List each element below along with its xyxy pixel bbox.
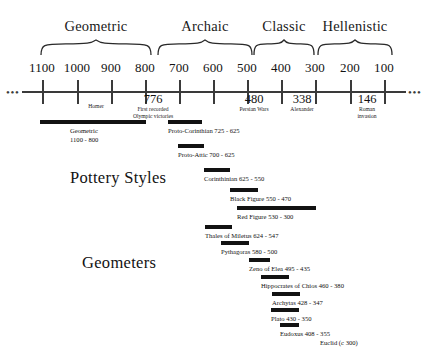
pottery-label-proto-attic-700-625: Proto-Attic 700 - 625 [178, 151, 235, 160]
axis-tick-900 [111, 80, 113, 104]
axis-event-caption-roman: Roman invasion [335, 106, 399, 120]
axis-tick-label-1100: 1100 [29, 60, 55, 76]
period-label-hellenistic: Hellenistic [295, 18, 415, 35]
pottery-bar-black-figure-550-470 [230, 188, 258, 192]
axis-event-year-146: 146 [358, 92, 377, 107]
pottery-label-proto-corinthian-725-625: Proto-Corinthian 725 - 625 [168, 127, 240, 136]
geometer-bar-plato-430-350 [271, 308, 299, 312]
geometer-bar-pythagoras-580-500 [221, 241, 249, 245]
axis-tick-label-400: 400 [271, 60, 291, 76]
axis-tick-100 [384, 80, 386, 104]
period-brace-archaic [157, 39, 253, 55]
axis-event-year-480: 480 [245, 92, 264, 107]
period-brace-geometric [40, 39, 152, 55]
axis-tick-label-800: 800 [135, 60, 155, 76]
pottery-label-geometric: Geometric 1100 - 800 [70, 127, 98, 144]
axis-tick-label-700: 700 [169, 60, 189, 76]
timeline-figure: GeometricArchaicClassicHellenistic ••• •… [0, 0, 428, 349]
axis-tick-label-500: 500 [237, 60, 257, 76]
axis-tick-600 [213, 80, 215, 104]
axis-tick-1100 [42, 80, 44, 104]
geometer-label-pythagoras-580-500: Pythagoras 580 - 500 [221, 248, 277, 257]
geometer-label-archytas-428-347: Archytas 428 - 347 [272, 299, 323, 308]
pottery-bar-proto-attic-700-625 [178, 144, 204, 148]
period-brace-classic [253, 39, 315, 55]
axis-event-caption-first-recorded: First recorded Olympic victories [121, 106, 185, 120]
pottery-label-black-figure-550-470: Black Figure 550 - 470 [230, 195, 291, 204]
axis-event-year-338: 338 [293, 92, 312, 107]
geometer-bar-zeno-of-elea-495-435 [249, 258, 270, 262]
axis-tick-700 [179, 80, 181, 104]
axis-event-caption-alexander: Alexander [270, 106, 334, 113]
geometer-label-hippocrates-of-chios-460-380: Hippocrates of Chios 460 - 380 [261, 282, 344, 291]
geometer-label-euclid-c-300: Euclid (c 300) [320, 339, 358, 348]
pottery-bar-red-figure-530-300 [237, 206, 316, 210]
axis-tick-label-600: 600 [203, 60, 223, 76]
axis-tick-1000 [77, 80, 79, 104]
axis-tick-label-100: 100 [374, 60, 394, 76]
section-title-geometers: Geometers [82, 253, 156, 273]
pottery-label-corinthinian-625-550: Corinthinian 625 - 550 [204, 175, 264, 184]
geometer-label-zeno-of-elea-495-435: Zeno of Elea 495 - 435 [249, 265, 310, 274]
axis-tick-400 [281, 80, 283, 104]
geometer-bar-thales-of-miletus-624-547 [205, 225, 232, 229]
axis-tick-300 [315, 80, 317, 104]
section-title-pottery-styles: Pottery Styles [70, 168, 166, 188]
axis-tick-label-900: 900 [101, 60, 121, 76]
geometer-bar-eudoxus-408-355 [280, 323, 299, 327]
geometer-bar-archytas-428-347 [272, 292, 300, 296]
axis-event-caption-homer: Homer [64, 103, 128, 110]
pottery-bar-proto-corinthian-725-625 [168, 120, 202, 124]
axis-right-ellipsis: ••• [408, 86, 421, 98]
axis-event-year-776: 776 [144, 92, 163, 107]
geometer-label-eudoxus-408-355: Eudoxus 408 - 355 [280, 330, 330, 339]
axis-left-ellipsis: ••• [6, 86, 19, 98]
pottery-label-red-figure-530-300: Red Figure 530 - 300 [237, 213, 293, 222]
geometer-label-thales-of-miletus-624-547: Thales of Miletus 624 - 547 [205, 232, 278, 241]
pottery-bar-geometric [40, 120, 146, 124]
axis-tick-label-1000: 1000 [64, 60, 90, 76]
period-brace-hellenistic [317, 39, 393, 55]
axis-tick-label-200: 200 [340, 60, 360, 76]
axis-tick-label-300: 300 [305, 60, 325, 76]
geometer-bar-hippocrates-of-chios-460-380 [261, 275, 289, 279]
axis-tick-200 [350, 80, 352, 104]
period-label-geometric: Geometric [36, 18, 156, 35]
pottery-bar-corinthinian-625-550 [204, 168, 230, 172]
